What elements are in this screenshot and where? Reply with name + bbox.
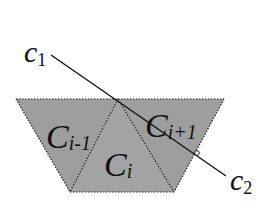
triangle-strip-diagram: c1 c2 Ci-1 Ci Ci+1 <box>0 0 269 206</box>
label-c2: c2 <box>230 163 252 198</box>
label-c1: c1 <box>24 35 46 70</box>
intersection-marker <box>195 151 200 156</box>
